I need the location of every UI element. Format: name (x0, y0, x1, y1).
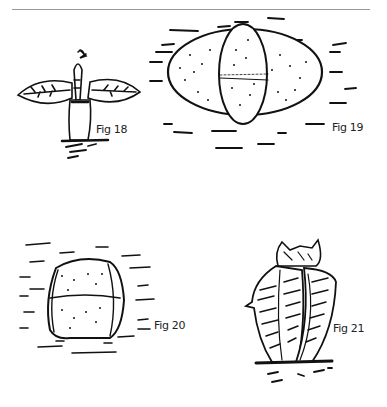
figure-18: Fig 18 (0, 40, 150, 170)
figure-20: Fig 20 (0, 240, 200, 380)
figure-18-label: Fig 18 (96, 123, 127, 136)
figure-21: Fig 21 (220, 230, 387, 407)
figure-19-label: Fig 19 (332, 121, 363, 134)
figure-20-label: Fig 20 (154, 319, 185, 332)
rounded-body-drawing (0, 240, 200, 380)
striped-leaves-drawing (220, 230, 387, 407)
document-page: Fig 18 (0, 0, 387, 407)
oval-body-drawing (150, 0, 387, 180)
seedling-drawing (0, 40, 150, 170)
figure-21-label: Fig 21 (333, 322, 364, 335)
figure-19: Fig 19 (150, 0, 387, 180)
